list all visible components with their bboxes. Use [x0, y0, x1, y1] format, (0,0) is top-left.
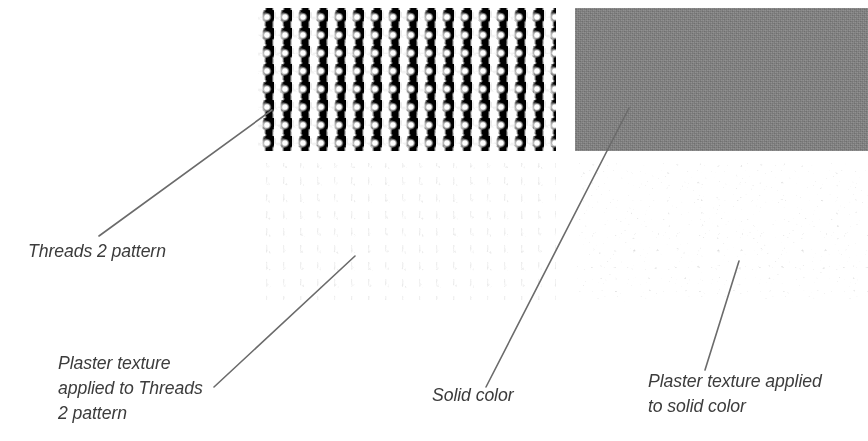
leader-line-threads-2-pattern — [99, 110, 272, 236]
swatch-threads-2-pattern — [258, 8, 556, 151]
caption-solid-color-plaster: Plaster texture applied to solid color — [648, 368, 822, 418]
swatch-threads-2-pattern-plaster — [258, 163, 556, 300]
caption-threads-2-pattern-plaster: Plaster texture applied to Threads 2 pat… — [58, 350, 203, 425]
caption-solid-color: Solid color — [432, 382, 513, 407]
swatch-solid-color-plaster — [575, 163, 868, 302]
swatch-solid-color — [575, 8, 868, 151]
texture-comparison-figure: Threads 2 pattern Plaster texture applie… — [0, 0, 868, 441]
caption-threads-2-pattern: Threads 2 pattern — [28, 238, 166, 263]
